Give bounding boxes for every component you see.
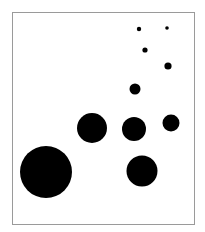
dot: [164, 62, 171, 69]
dots-group: [20, 26, 180, 198]
dot-diagram: [0, 0, 205, 232]
dot: [165, 26, 169, 30]
dot: [127, 156, 158, 187]
dot: [163, 115, 180, 132]
dot: [77, 113, 107, 143]
dot: [20, 146, 72, 198]
dot: [122, 117, 146, 141]
dot: [137, 27, 141, 31]
dot: [130, 84, 141, 95]
dot: [142, 47, 147, 52]
